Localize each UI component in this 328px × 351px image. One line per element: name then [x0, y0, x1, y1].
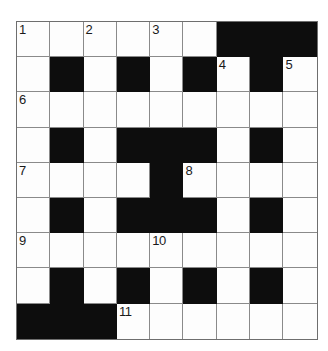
- crossword-open-cell[interactable]: [183, 22, 216, 57]
- crossword-open-cell[interactable]: 8: [183, 163, 216, 198]
- crossword-open-cell[interactable]: [117, 92, 150, 127]
- clue-number: 3: [152, 22, 159, 37]
- crossword-block-cell: [50, 57, 83, 92]
- crossword-open-cell[interactable]: [117, 22, 150, 57]
- crossword-open-cell[interactable]: [84, 92, 117, 127]
- clue-number: 7: [19, 163, 26, 178]
- crossword-open-cell[interactable]: [183, 304, 216, 339]
- crossword-block-cell: [50, 128, 83, 163]
- crossword-open-cell[interactable]: [217, 304, 250, 339]
- clue-number: 11: [119, 304, 132, 319]
- crossword-block-cell: [117, 198, 150, 233]
- clue-number: 10: [152, 233, 166, 248]
- crossword-open-cell[interactable]: [283, 128, 316, 163]
- crossword-block-cell: [84, 304, 117, 339]
- crossword-block-cell: [183, 268, 216, 303]
- crossword-block-cell: [150, 163, 183, 198]
- crossword-block-cell: [250, 268, 283, 303]
- crossword-open-cell[interactable]: [183, 92, 216, 127]
- crossword-open-cell[interactable]: [150, 268, 183, 303]
- crossword-open-cell[interactable]: [50, 163, 83, 198]
- crossword-block-cell: [250, 22, 283, 57]
- crossword-open-cell[interactable]: [283, 233, 316, 268]
- crossword-block-cell: [117, 268, 150, 303]
- crossword-open-cell[interactable]: [50, 22, 83, 57]
- crossword-open-cell[interactable]: [217, 198, 250, 233]
- crossword-open-cell[interactable]: [50, 233, 83, 268]
- crossword-block-cell: [183, 198, 216, 233]
- crossword-block-cell: [183, 128, 216, 163]
- crossword-open-cell[interactable]: [17, 268, 50, 303]
- crossword-block-cell: [50, 198, 83, 233]
- crossword-open-cell[interactable]: 3: [150, 22, 183, 57]
- clue-number: 6: [19, 92, 26, 107]
- crossword-open-cell[interactable]: 7: [17, 163, 50, 198]
- crossword-open-cell[interactable]: [150, 304, 183, 339]
- crossword-open-cell[interactable]: [84, 198, 117, 233]
- crossword-open-cell[interactable]: [250, 304, 283, 339]
- crossword-open-cell[interactable]: 11: [117, 304, 150, 339]
- crossword-open-cell[interactable]: 6: [17, 92, 50, 127]
- crossword-open-cell[interactable]: 5: [283, 57, 316, 92]
- crossword-open-cell[interactable]: [150, 92, 183, 127]
- crossword-open-cell[interactable]: 4: [217, 57, 250, 92]
- crossword-open-cell[interactable]: [283, 163, 316, 198]
- crossword-open-cell[interactable]: [150, 57, 183, 92]
- crossword-block-cell: [250, 57, 283, 92]
- crossword-open-cell[interactable]: [183, 233, 216, 268]
- crossword-open-cell[interactable]: [84, 233, 117, 268]
- clue-number: 1: [19, 22, 26, 37]
- clue-number: 2: [86, 22, 93, 37]
- crossword-open-cell[interactable]: [117, 163, 150, 198]
- crossword-open-cell[interactable]: [217, 92, 250, 127]
- crossword-open-cell[interactable]: [84, 268, 117, 303]
- crossword-open-cell[interactable]: [217, 233, 250, 268]
- crossword-open-cell[interactable]: [50, 92, 83, 127]
- crossword-open-cell[interactable]: [84, 57, 117, 92]
- crossword-open-cell[interactable]: [250, 92, 283, 127]
- clue-number: 8: [185, 163, 192, 178]
- crossword-open-cell[interactable]: [217, 268, 250, 303]
- crossword-block-cell: [50, 268, 83, 303]
- crossword-block-cell: [250, 198, 283, 233]
- crossword-open-cell[interactable]: [283, 92, 316, 127]
- crossword-open-cell[interactable]: 9: [17, 233, 50, 268]
- crossword-open-cell[interactable]: [117, 233, 150, 268]
- crossword-open-cell[interactable]: [217, 163, 250, 198]
- crossword-open-cell[interactable]: [250, 163, 283, 198]
- crossword-open-cell[interactable]: [250, 233, 283, 268]
- crossword-open-cell[interactable]: [84, 163, 117, 198]
- crossword-open-cell[interactable]: [17, 57, 50, 92]
- crossword-open-cell[interactable]: 10: [150, 233, 183, 268]
- crossword-open-cell[interactable]: [17, 198, 50, 233]
- crossword-block-cell: [283, 22, 316, 57]
- crossword-block-cell: [117, 57, 150, 92]
- crossword-open-cell[interactable]: [283, 304, 316, 339]
- crossword-block-cell: [17, 304, 50, 339]
- crossword-open-cell[interactable]: [217, 128, 250, 163]
- crossword-open-cell[interactable]: [283, 268, 316, 303]
- crossword-open-cell[interactable]: [84, 128, 117, 163]
- crossword-block-cell: [50, 304, 83, 339]
- crossword-open-cell[interactable]: 2: [84, 22, 117, 57]
- crossword-block-cell: [117, 128, 150, 163]
- crossword-block-cell: [150, 128, 183, 163]
- crossword-block-cell: [183, 57, 216, 92]
- crossword-block-cell: [150, 198, 183, 233]
- clue-number: 4: [219, 57, 226, 72]
- crossword-puzzle: 1234567891011: [0, 0, 328, 351]
- crossword-open-cell[interactable]: [17, 128, 50, 163]
- clue-number: 9: [19, 233, 26, 248]
- crossword-open-cell[interactable]: [283, 198, 316, 233]
- crossword-block-cell: [250, 128, 283, 163]
- crossword-block-cell: [217, 22, 250, 57]
- crossword-grid[interactable]: 1234567891011: [16, 21, 318, 340]
- clue-number: 5: [285, 57, 292, 72]
- crossword-open-cell[interactable]: 1: [17, 22, 50, 57]
